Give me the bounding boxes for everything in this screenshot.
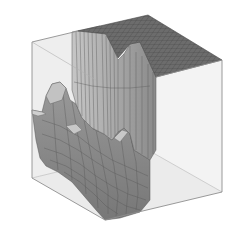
surface-plot-canvas	[0, 0, 236, 237]
surface-plot	[0, 0, 236, 237]
